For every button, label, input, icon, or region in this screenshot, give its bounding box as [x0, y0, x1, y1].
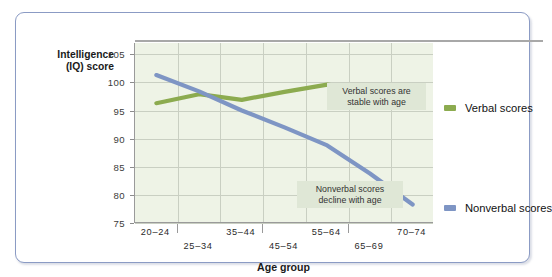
- y-axis-title-line-1: Intelligence: [38, 49, 114, 61]
- y-tick-mark-85: [130, 167, 134, 168]
- x-tick-mark-3: [262, 224, 263, 233]
- legend-item-verbal-scores[interactable]: Verbal scores: [444, 102, 533, 114]
- y-tick-mark-100: [130, 82, 134, 83]
- legend-swatch-verbal-icon: [444, 105, 456, 111]
- legend-label-verbal: Verbal scores: [465, 102, 533, 114]
- gridline-y-75: [135, 223, 433, 224]
- x-tick-label-45-54: 45–54: [269, 241, 298, 251]
- annotation-verbal-scores: Verbal scores are stable with age: [327, 83, 426, 110]
- x-tick-mark-1: [177, 224, 178, 233]
- legend-swatch-nonverbal-icon: [444, 205, 456, 211]
- y-tick-label-100: 100: [108, 77, 132, 88]
- y-tick-mark-95: [130, 111, 134, 112]
- y-axis-title: Intelligence (IQ) score: [38, 49, 114, 73]
- y-axis-title-line-2: (IQ) score: [38, 61, 114, 73]
- x-tick-label-65-69: 65–69: [354, 241, 383, 251]
- x-tick-label-70-74: 70–74: [397, 227, 426, 237]
- x-tick-label-35-44: 35–44: [226, 227, 255, 237]
- legend-label-nonverbal: Nonverbal scores: [465, 202, 552, 214]
- x-tick-label-20-24: 20–24: [141, 227, 170, 237]
- y-tick-mark-105: [130, 54, 134, 55]
- legend-item-nonverbal-scores[interactable]: Nonverbal scores: [444, 202, 552, 214]
- plot-area: Verbal scores are stable with age Nonver…: [134, 43, 433, 223]
- figure-frame: Intelligence (IQ) score Verbal scores ar…: [15, 12, 530, 263]
- x-axis-title: Age group: [134, 261, 433, 273]
- y-tick-mark-80: [130, 195, 134, 196]
- y-tick-label-105: 105: [108, 49, 132, 60]
- x-tick-label-55-64: 55–64: [312, 227, 341, 237]
- y-tick-mark-75: [130, 223, 134, 224]
- y-tick-mark-90: [130, 139, 134, 140]
- x-tick-label-25-34: 25–34: [184, 241, 213, 251]
- x-tick-mark-5: [348, 224, 349, 233]
- annotation-nonverbal-scores: Nonverbal scores decline with age: [297, 181, 403, 208]
